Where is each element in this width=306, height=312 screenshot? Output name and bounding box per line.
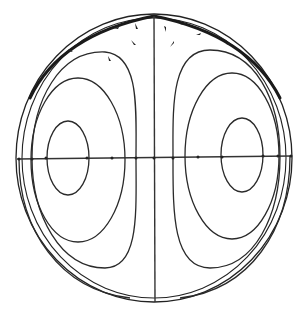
right-inner-streamline xyxy=(221,118,263,192)
right-outermost-streamline xyxy=(180,156,290,298)
arrow-mark-icon xyxy=(170,41,174,47)
left-outermost-streamline xyxy=(19,159,130,298)
arrow-mark-icon xyxy=(196,33,201,35)
arrow-mark-icon xyxy=(108,56,111,61)
arrow-mark-icon xyxy=(164,26,166,32)
diagram-canvas xyxy=(0,0,306,312)
arrow-mark-icon xyxy=(135,23,138,29)
upper-boundary-layer xyxy=(30,16,280,98)
arrow-mark-icon xyxy=(131,40,136,45)
left-middle-streamline xyxy=(31,78,125,242)
flow-arrow-marks xyxy=(68,22,231,61)
streamline-diagram xyxy=(0,0,306,312)
left-circulation-cell xyxy=(19,52,136,298)
